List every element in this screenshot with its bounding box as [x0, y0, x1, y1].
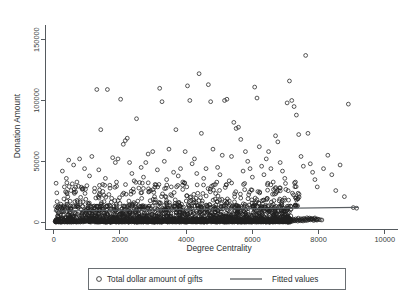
y-tick-label: 100000 — [32, 88, 41, 113]
x-tick-label: 10000 — [374, 235, 395, 244]
x-tick-label: 8000 — [310, 235, 326, 244]
x-tick-label: 4000 — [178, 235, 194, 244]
y-tick-label: 0 — [32, 220, 41, 224]
chart-legend: Total dollar amount of gifts Fitted valu… — [89, 269, 346, 290]
y-tick-label: 150000 — [32, 27, 41, 52]
x-tick-label: 2000 — [112, 235, 128, 244]
legend-label-fit: Fitted values — [272, 275, 318, 284]
chart-canvas: Donation Amount Degree Centrality 050000… — [0, 0, 413, 300]
x-tick-label: 0 — [52, 235, 56, 244]
y-axis-title: Donation Amount — [12, 93, 22, 158]
figure-background — [0, 0, 413, 300]
scatter-plot-figure: Donation Amount Degree Centrality 050000… — [0, 0, 413, 300]
legend-label-scatter: Total dollar amount of gifts — [107, 275, 203, 284]
x-axis-title: Degree Centrality — [186, 243, 252, 253]
y-tick-label: 50000 — [32, 151, 41, 172]
x-tick-label: 6000 — [244, 235, 260, 244]
